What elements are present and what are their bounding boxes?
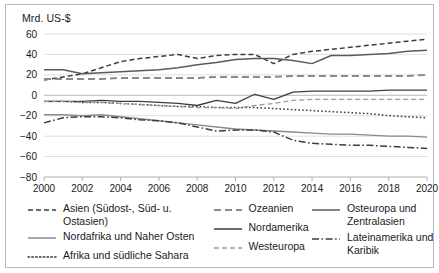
legend-item-nordamerika[interactable]: Nordamerika [213, 221, 311, 236]
series-line-nordamerika [44, 90, 427, 105]
legend-label-nordafrika: Nordafrika und Naher Osten [63, 230, 194, 243]
x-tick-label: 2002 [71, 183, 94, 194]
y-tick-label: 20 [26, 69, 38, 80]
chart-figure: Mrd. US-$ 6040200−20−40−60−8020002002200… [0, 0, 439, 273]
legend-label-osteuropa: Osteuropa und Zentralasien [347, 202, 416, 227]
x-tick-label: 2008 [186, 183, 209, 194]
legend-item-ozeanien[interactable]: Ozeanien [213, 202, 311, 217]
y-tick-label: 60 [26, 29, 38, 40]
legend-label-ozeanien: Ozeanien [249, 202, 294, 215]
legend-item-nordafrika[interactable]: Nordafrika und Naher Osten [27, 230, 213, 245]
x-tick-label: 2012 [263, 183, 286, 194]
x-tick-label: 2006 [148, 183, 171, 194]
y-tick-label: 0 [31, 90, 37, 101]
legend-item-osteuropa[interactable]: Osteuropa und Zentralasien [311, 202, 434, 227]
legend-swatch-westeuropa [213, 242, 243, 254]
legend-swatch-afrika [27, 251, 57, 263]
legend-label-nordamerika: Nordamerika [249, 221, 309, 234]
legend-column-3: Osteuropa und ZentralasienLateinamerika … [311, 202, 434, 268]
legend-swatch-osteuropa [311, 204, 341, 216]
legend-item-asien[interactable]: Asien (Südost-, Süd- u. Ostasien) [27, 202, 213, 226]
legend-item-westeuropa[interactable]: Westeuropa [213, 240, 311, 255]
x-tick-label: 2014 [301, 183, 324, 194]
y-tick-label: 40 [26, 49, 38, 60]
series-line-nordafrika [44, 115, 427, 137]
y-tick-label: −40 [20, 131, 37, 142]
series-line-lateinamerika [44, 117, 427, 149]
x-tick-label: 2020 [416, 183, 439, 194]
legend-label-westeuropa: Westeuropa [249, 240, 305, 253]
legend-label-afrika: Afrika und südliche Sahara [63, 249, 189, 262]
legend-label-lateinamerika: Lateinamerika und Karibik [347, 231, 433, 256]
series-line-ozeanien [44, 75, 427, 79]
legend-label-asien: Asien (Südost-, Süd- u. Ostasien) [63, 202, 213, 227]
legend-swatch-ozeanien [213, 204, 243, 216]
y-tick-label: −20 [20, 110, 37, 121]
legend-swatch-asien [27, 204, 57, 216]
x-tick-label: 2010 [224, 183, 247, 194]
y-tick-label: −80 [20, 172, 37, 183]
x-tick-label: 2016 [339, 183, 362, 194]
legend-swatch-nordafrika [27, 232, 57, 244]
x-tick-label: 2000 [33, 183, 56, 194]
legend-column-1: Asien (Südost-, Süd- u. Ostasien)Nordafr… [27, 202, 213, 268]
legend-swatch-lateinamerika [311, 233, 341, 245]
y-tick-label: −60 [20, 151, 37, 162]
legend-item-afrika[interactable]: Afrika und südliche Sahara [27, 249, 213, 264]
x-tick-label: 2018 [378, 183, 401, 194]
chart-legend: Asien (Südost-, Süd- u. Ostasien)Nordafr… [5, 196, 434, 268]
legend-swatch-nordamerika [213, 223, 243, 235]
legend-item-lateinamerika[interactable]: Lateinamerika und Karibik [311, 231, 434, 256]
x-tick-label: 2004 [109, 183, 132, 194]
legend-column-2: OzeanienNordamerikaWesteuropa [213, 202, 311, 268]
